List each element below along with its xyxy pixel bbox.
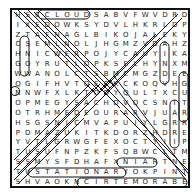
letter-cell[interactable]: R: [170, 119, 180, 129]
letter-cell[interactable]: R: [150, 158, 160, 168]
letter-cell[interactable]: M: [180, 60, 190, 70]
letter-cell[interactable]: I: [82, 129, 92, 139]
letter-cell[interactable]: K: [111, 80, 121, 90]
letter-cell[interactable]: E: [42, 99, 52, 109]
letter-cell[interactable]: L: [140, 89, 150, 99]
letter-cell[interactable]: R: [62, 138, 72, 148]
letter-cell[interactable]: W: [52, 50, 62, 60]
letter-cell[interactable]: R: [131, 129, 141, 139]
letter-cell[interactable]: X: [170, 60, 180, 70]
letter-cell[interactable]: F: [131, 11, 141, 21]
letter-cell[interactable]: E: [91, 80, 101, 90]
letter-cell[interactable]: A: [131, 50, 141, 60]
letter-cell[interactable]: M: [42, 40, 52, 50]
letter-cell[interactable]: O: [82, 60, 92, 70]
letter-cell[interactable]: U: [131, 89, 141, 99]
letter-cell[interactable]: X: [111, 138, 121, 148]
letter-cell[interactable]: D: [42, 21, 52, 31]
letter-cell[interactable]: C: [121, 70, 131, 80]
letter-cell[interactable]: E: [33, 40, 43, 50]
letter-cell[interactable]: S: [91, 11, 101, 21]
letter-cell[interactable]: V: [150, 11, 160, 21]
letter-cell[interactable]: S: [23, 11, 33, 21]
letter-cell[interactable]: I: [33, 50, 43, 60]
letter-cell[interactable]: N: [52, 31, 62, 41]
letter-cell[interactable]: U: [23, 168, 33, 178]
letter-cell[interactable]: A: [33, 31, 43, 41]
letter-cell[interactable]: P: [91, 60, 101, 70]
letter-cell[interactable]: R: [180, 109, 190, 119]
letter-cell[interactable]: H: [13, 119, 23, 129]
letter-cell[interactable]: C: [42, 50, 52, 60]
letter-cell[interactable]: Q: [121, 89, 131, 99]
letter-cell[interactable]: O: [82, 168, 92, 178]
letter-cell[interactable]: L: [52, 11, 62, 21]
letter-cell[interactable]: A: [91, 158, 101, 168]
letter-cell[interactable]: V: [121, 11, 131, 21]
letter-cell[interactable]: P: [150, 168, 160, 178]
letter-cell[interactable]: C: [121, 80, 131, 90]
letter-cell[interactable]: L: [131, 60, 141, 70]
letter-cell[interactable]: G: [13, 60, 23, 70]
letter-cell[interactable]: A: [121, 109, 131, 119]
letter-cell[interactable]: O: [13, 99, 23, 109]
letter-cell[interactable]: C: [170, 89, 180, 99]
letter-cell[interactable]: E: [101, 138, 111, 148]
letter-cell[interactable]: H: [42, 109, 52, 119]
letter-cell[interactable]: S: [13, 158, 23, 168]
letter-cell[interactable]: S: [91, 70, 101, 80]
letter-cell[interactable]: E: [121, 60, 131, 70]
letter-cell[interactable]: W: [140, 148, 150, 158]
letter-cell[interactable]: T: [150, 89, 160, 99]
letter-cell[interactable]: K: [140, 21, 150, 31]
letter-cell[interactable]: Z: [150, 70, 160, 80]
letter-cell[interactable]: N: [121, 158, 131, 168]
letter-cell[interactable]: K: [72, 129, 82, 139]
letter-cell[interactable]: Y: [150, 50, 160, 60]
letter-cell[interactable]: O: [91, 109, 101, 119]
letter-cell[interactable]: P: [72, 148, 82, 158]
letter-cell[interactable]: I: [131, 119, 141, 129]
letter-cell[interactable]: A: [62, 31, 72, 41]
letter-cell[interactable]: Y: [91, 21, 101, 31]
letter-cell[interactable]: L: [82, 31, 92, 41]
letter-cell[interactable]: H: [101, 40, 111, 50]
letter-cell[interactable]: D: [150, 40, 160, 50]
letter-cell[interactable]: O: [62, 11, 72, 21]
letter-cell[interactable]: K: [101, 129, 111, 139]
letter-cell[interactable]: S: [111, 60, 121, 70]
letter-cell[interactable]: N: [23, 89, 33, 99]
letter-cell[interactable]: T: [140, 138, 150, 148]
letter-cell[interactable]: K: [111, 31, 121, 41]
letter-cell[interactable]: Z: [82, 148, 92, 158]
letter-cell[interactable]: O: [140, 80, 150, 90]
letter-cell[interactable]: Q: [150, 80, 160, 90]
letter-cell[interactable]: H: [23, 178, 33, 188]
letter-cell[interactable]: A: [140, 31, 150, 41]
letter-cell[interactable]: C: [72, 70, 82, 80]
letter-cell[interactable]: A: [52, 168, 62, 178]
letter-cell[interactable]: F: [62, 158, 72, 168]
letter-cell[interactable]: Z: [140, 129, 150, 139]
letter-cell[interactable]: N: [91, 168, 101, 178]
letter-cell[interactable]: B: [170, 178, 180, 188]
letter-cell[interactable]: N: [170, 168, 180, 178]
letter-cell[interactable]: H: [170, 40, 180, 50]
letter-cell[interactable]: O: [13, 109, 23, 119]
letter-cell[interactable]: T: [33, 138, 43, 148]
letter-cell[interactable]: A: [170, 109, 180, 119]
letter-cell[interactable]: R: [111, 168, 121, 178]
letter-cell[interactable]: N: [160, 99, 170, 109]
letter-cell[interactable]: D: [101, 21, 111, 31]
letter-cell[interactable]: D: [82, 11, 92, 21]
letter-cell[interactable]: T: [180, 168, 190, 178]
letter-cell[interactable]: S: [42, 119, 52, 129]
letter-cell[interactable]: V: [62, 80, 72, 90]
letter-cell[interactable]: Q: [13, 80, 23, 90]
letter-cell[interactable]: V: [121, 99, 131, 109]
letter-cell[interactable]: Y: [33, 60, 43, 70]
letter-cell[interactable]: I: [170, 138, 180, 148]
letter-cell[interactable]: N: [72, 178, 82, 188]
letter-cell[interactable]: T: [82, 89, 92, 99]
letter-cell[interactable]: R: [101, 178, 111, 188]
